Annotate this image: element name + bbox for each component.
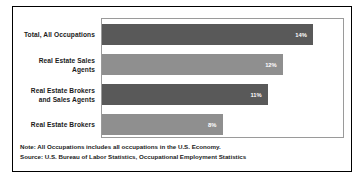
bar-row: Real Estate Sales Agents 12%: [102, 54, 343, 75]
bar-value-label: 8%: [208, 122, 216, 128]
bar-value-label: 11%: [250, 92, 261, 98]
category-label: Total, All Occupations: [0, 30, 95, 40]
category-label-line: Real Estate Sales: [0, 55, 95, 65]
bar: 11%: [102, 84, 268, 105]
category-label-line: Agents: [0, 65, 95, 75]
category-label-line: and Sales Agents: [0, 95, 95, 105]
plot-area: Total, All Occupations 14% Real Estate S…: [101, 18, 344, 138]
note-text: Note: All Occupations includes all occup…: [20, 142, 345, 152]
bar-row: Real Estate Brokers and Sales Agents 11%: [102, 84, 343, 105]
bar: 8%: [102, 114, 223, 135]
bar-value-label: 14%: [295, 32, 307, 38]
source-text: Source: U.S. Bureau of Labor Statistics,…: [20, 152, 345, 162]
category-label: Real Estate Brokers: [0, 120, 95, 130]
category-label-line: Real Estate Brokers: [0, 85, 95, 95]
bar: 14%: [102, 24, 313, 45]
chart-figure: Total, All Occupations 14% Real Estate S…: [12, 6, 352, 172]
category-label: Real Estate Brokers and Sales Agents: [0, 85, 95, 104]
bar-value-label: 12%: [265, 62, 277, 68]
footnotes: Note: All Occupations includes all occup…: [20, 142, 345, 161]
category-label-line: Total, All Occupations: [0, 30, 95, 40]
category-label: Real Estate Sales Agents: [0, 55, 95, 74]
bar-row: Total, All Occupations 14%: [102, 24, 343, 45]
bar: 12%: [102, 54, 283, 75]
bar-row: Real Estate Brokers 8%: [102, 114, 343, 135]
category-label-line: Real Estate Brokers: [0, 120, 95, 130]
